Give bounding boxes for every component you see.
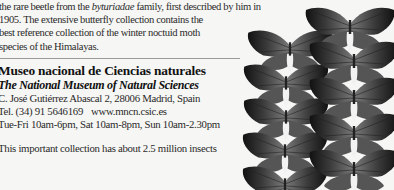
butterfly-specimens-image: [230, 0, 394, 190]
museum-address: C. José Gutiérrez Abascal 2, 28006 Madri…: [0, 92, 258, 105]
museum-contact: Tel. (34) 91 5646169www.mncn.csic.es: [0, 105, 258, 118]
museum-hours: Tue-Fri 10am-6pm, Sat 10am-8pm, Sun 10am…: [0, 118, 258, 131]
intro-line-2: 1905. The extensive butterfly collection…: [0, 13, 269, 26]
museum-english-name: The National Museum of Natural Sciences: [0, 78, 258, 92]
beetle-family-name: byturiadae: [92, 1, 134, 12]
intro-paragraph: the rare beetle from the byturiadae fami…: [0, 0, 269, 53]
intro-line-3: best reference collection of the winter …: [0, 26, 269, 39]
collection-note: This important collection has about 2.5 …: [0, 142, 258, 155]
museum-website-link[interactable]: www.mncn.csic.es: [91, 105, 167, 117]
section-divider: [0, 58, 240, 59]
museum-name: Museo nacional de Ciencias naturales: [0, 63, 258, 78]
intro-line-4: species of the Himalayas.: [0, 40, 269, 53]
museum-info: Museo nacional de Ciencias naturales The…: [0, 63, 258, 132]
guide-page: the rare beetle from the byturiadae fami…: [0, 0, 394, 190]
intro-line-1: the rare beetle from the byturiadae fami…: [0, 0, 269, 13]
museum-phone: Tel. (34) 91 5646169: [0, 105, 83, 117]
